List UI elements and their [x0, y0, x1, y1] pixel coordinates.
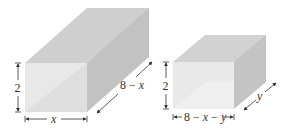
dimension-width-left: x — [25, 112, 87, 126]
dimension-height-right: 2 — [163, 62, 170, 109]
two-boxes-diagram: 2 x 8 − x 2 8 − x − y — [0, 0, 296, 129]
dimension-height-left: 2 — [15, 63, 22, 112]
box-right — [173, 35, 266, 109]
height-label-right: 2 — [163, 79, 169, 93]
box-left — [25, 8, 149, 112]
height-label-left: 2 — [15, 81, 21, 95]
depth-label-left: 8 − x — [120, 78, 145, 92]
depth-label-right: y — [256, 89, 263, 103]
width-label-left: x — [50, 112, 57, 126]
dimension-width-right: 8 − x − y — [173, 110, 234, 124]
width-label-right: 8 − x − y — [184, 110, 227, 124]
